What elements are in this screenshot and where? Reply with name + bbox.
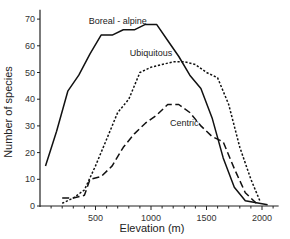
y-tick-label: 70 bbox=[25, 14, 35, 24]
series-ubiquitous-line bbox=[62, 62, 260, 204]
y-tick-label: 60 bbox=[25, 41, 35, 51]
series-label: Centric bbox=[170, 118, 199, 128]
x-axis-title: Elevation (m) bbox=[120, 222, 185, 234]
y-tick-label: 40 bbox=[25, 94, 35, 104]
x-tick-label: 2000 bbox=[252, 213, 272, 223]
y-axis-title: Number of species bbox=[2, 66, 14, 158]
y-tick-label: 50 bbox=[25, 68, 35, 78]
species-elevation-chart: 010203040506070500100015002000 Boreal - … bbox=[0, 0, 290, 239]
y-tick-label: 30 bbox=[25, 121, 35, 131]
series-label: Boreal - alpine bbox=[89, 16, 147, 26]
axes: 010203040506070500100015002000 bbox=[25, 10, 279, 223]
y-tick-label: 0 bbox=[30, 201, 35, 211]
y-tick-label: 20 bbox=[25, 148, 35, 158]
series-label: Ubiquitous bbox=[130, 48, 173, 58]
series-labels: Boreal - alpineUbiquitousCentric bbox=[89, 16, 199, 127]
series-centric-line bbox=[62, 105, 256, 204]
x-tick-label: 500 bbox=[88, 213, 103, 223]
y-tick-label: 10 bbox=[25, 174, 35, 184]
x-tick-label: 1500 bbox=[196, 213, 216, 223]
